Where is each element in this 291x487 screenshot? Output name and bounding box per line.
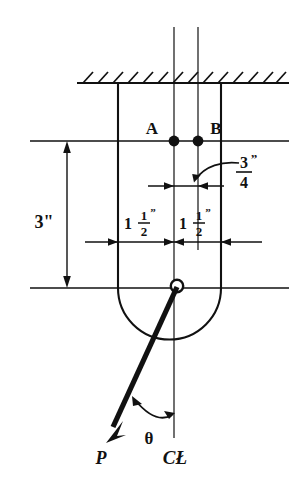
label-force-p: P: [95, 448, 108, 468]
fraction-denominator-offset: 4: [240, 174, 248, 191]
whole-number-right: 1: [179, 215, 187, 232]
fraction-denominator-right: 2: [196, 224, 203, 239]
inch-mark-left: ”: [150, 206, 156, 218]
inch-mark-right: ”: [205, 206, 211, 218]
diagram-canvas: A B 3" 3 ” 4 1 1 ” 2 1 1 ” 2 θ P CŁ: [0, 0, 291, 487]
whole-number-left: 1: [124, 215, 132, 232]
fraction-numerator-left: 1: [141, 208, 148, 223]
engineering-diagram: A B 3" 3 ” 4 1 1 ” 2 1 1 ” 2 θ P CŁ: [0, 0, 291, 487]
label-angle-theta: θ: [145, 429, 154, 448]
fraction-numerator-right: 1: [196, 208, 203, 223]
label-point-a: A: [146, 119, 159, 138]
canvas-background: [0, 0, 291, 487]
bolt-point-a: [169, 136, 180, 147]
fraction-denominator-left: 2: [141, 224, 148, 239]
inch-mark-offset: ”: [251, 151, 258, 166]
dimension-label-height: 3": [35, 212, 54, 232]
label-centerline: CŁ: [163, 447, 187, 468]
fraction-numerator-offset: 3: [240, 154, 248, 171]
bolt-point-b: [193, 136, 204, 147]
label-point-b: B: [210, 119, 221, 138]
